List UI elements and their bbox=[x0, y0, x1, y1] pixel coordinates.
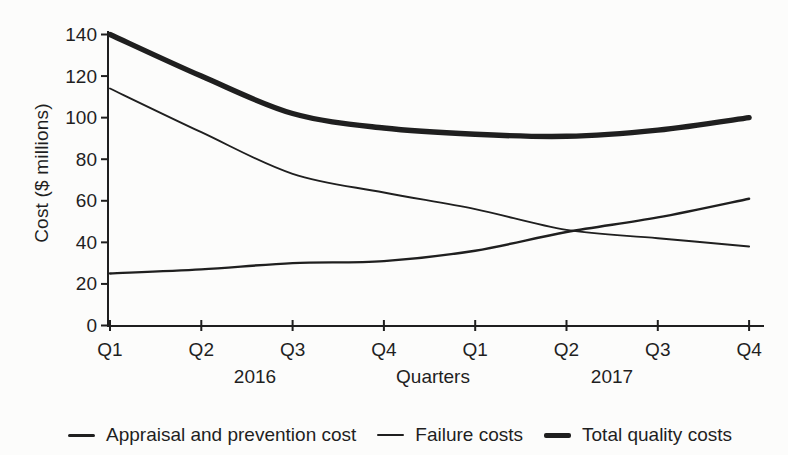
year-label-2016: 2016 bbox=[234, 366, 276, 388]
y-tick-label: 0 bbox=[86, 315, 97, 336]
legend-label-failure: Failure costs bbox=[415, 424, 523, 446]
y-tick-label: 100 bbox=[65, 107, 97, 128]
y-tick-label: 80 bbox=[76, 149, 97, 170]
y-tick-label: 40 bbox=[76, 232, 97, 253]
x-tick-label: Q1 bbox=[463, 339, 488, 360]
x-tick-label: Q3 bbox=[645, 339, 670, 360]
failure-line-icon bbox=[377, 434, 404, 436]
x-tick-label: Q1 bbox=[97, 339, 122, 360]
quality-costs-figure: Cost ($ millions) 020406080100120140Q1Q2… bbox=[0, 0, 788, 455]
plot-area: 020406080100120140Q1Q2Q3Q4Q1Q2Q3Q4 bbox=[0, 0, 788, 400]
legend-item-total: Total quality costs bbox=[544, 424, 732, 446]
y-tick-label: 120 bbox=[65, 66, 97, 87]
total-line-icon bbox=[544, 433, 571, 438]
legend-label-total: Total quality costs bbox=[582, 424, 732, 446]
series-line-0 bbox=[110, 199, 749, 274]
x-tick-label: Q3 bbox=[280, 339, 305, 360]
year-label-2017: 2017 bbox=[591, 366, 633, 388]
y-tick-label: 60 bbox=[76, 190, 97, 211]
y-tick-label: 20 bbox=[76, 273, 97, 294]
y-tick-label: 140 bbox=[65, 24, 97, 45]
x-axis-title: Quarters bbox=[396, 366, 470, 388]
x-tick-label: Q4 bbox=[736, 339, 762, 360]
legend-item-failure: Failure costs bbox=[377, 424, 523, 446]
series-line-2 bbox=[110, 35, 749, 137]
legend: Appraisal and prevention cost Failure co… bbox=[68, 424, 732, 446]
x-tick-label: Q2 bbox=[189, 339, 214, 360]
series-line-1 bbox=[110, 89, 749, 247]
legend-item-appraisal: Appraisal and prevention cost bbox=[68, 424, 356, 446]
x-tick-label: Q2 bbox=[554, 339, 579, 360]
legend-label-appraisal: Appraisal and prevention cost bbox=[106, 424, 356, 446]
appraisal-line-icon bbox=[68, 434, 95, 437]
x-tick-label: Q4 bbox=[371, 339, 397, 360]
